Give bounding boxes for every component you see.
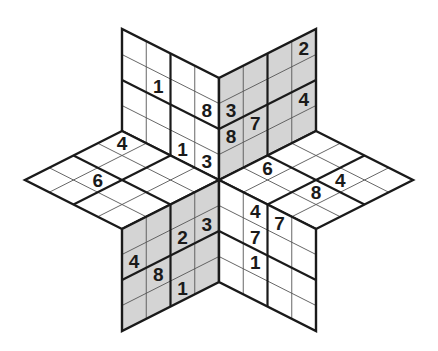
given-digit: 8 [202, 100, 213, 121]
given-digit: 4 [335, 170, 346, 191]
given-digit: 1 [177, 139, 188, 160]
panels-layer [25, 29, 413, 331]
given-digit: 1 [250, 252, 261, 273]
given-digit: 6 [262, 158, 273, 179]
given-digit: 1 [153, 76, 164, 97]
given-digit: 3 [202, 214, 213, 235]
given-digit: 4 [250, 201, 261, 222]
given-digit: 4 [117, 133, 128, 154]
given-digit: 8 [311, 182, 322, 203]
given-digit: 6 [92, 170, 103, 191]
given-digit: 3 [202, 151, 213, 172]
given-digit: 7 [274, 213, 285, 234]
given-digit: 8 [153, 264, 164, 285]
given-digit: 8 [226, 126, 237, 147]
given-digit: 4 [299, 89, 310, 110]
star-sudoku-board: 81132387446684234814771 [0, 0, 438, 351]
given-digit: 2 [299, 38, 310, 59]
given-digit: 2 [177, 227, 188, 248]
given-digit: 7 [250, 227, 261, 248]
given-digit: 4 [129, 251, 140, 272]
given-digit: 1 [177, 278, 188, 299]
given-digit: 7 [250, 113, 261, 134]
given-digit: 3 [226, 100, 237, 121]
